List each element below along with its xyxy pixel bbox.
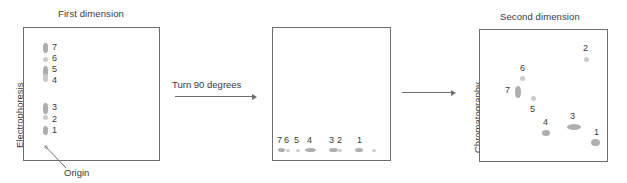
- spot-7-first: [43, 43, 48, 53]
- turn-arrow-line: [175, 96, 253, 97]
- spot-3-second: [567, 124, 581, 130]
- spot-5-turned: [296, 149, 300, 152]
- spot-label-1-second: 1: [594, 128, 599, 137]
- spot-label-4-turned: 4: [307, 136, 312, 145]
- arrow-right-icon: [451, 90, 456, 96]
- spot-label-6-second: 6: [520, 64, 525, 73]
- spot-label-3-turned: 3: [329, 136, 334, 145]
- spot-origin-turned: [372, 149, 376, 152]
- spot-7-second: [515, 86, 521, 98]
- spot-label-4-first: 4: [52, 76, 57, 85]
- spot-label-7-second: 7: [505, 86, 510, 95]
- spot-4-second: [542, 130, 550, 136]
- spot-2-turned: [338, 149, 342, 152]
- spot-label-3-first: 3: [52, 103, 57, 112]
- spot-6-second: [520, 76, 525, 81]
- spot-label-4-second: 4: [543, 118, 548, 127]
- spot-label-2-first: 2: [52, 115, 57, 124]
- spot-2-first: [43, 115, 48, 120]
- spot-label-3-second: 3: [570, 112, 575, 121]
- spot-1-turned: [355, 148, 363, 152]
- spot-4-first: [43, 74, 48, 82]
- spot-label-6-first: 6: [52, 54, 57, 63]
- spot-label-1-first: 1: [52, 126, 57, 135]
- spot-3-first: [43, 103, 48, 114]
- spot-5-second: [531, 96, 536, 101]
- panel-second-dimension: [479, 29, 608, 162]
- spot-1-first: [43, 126, 48, 135]
- spot-label-7-turned: 7: [277, 136, 282, 145]
- spot-6-first: [43, 57, 48, 62]
- spot-label-5-second: 5: [530, 105, 535, 114]
- spot-label-7-first: 7: [52, 43, 57, 52]
- flow-arrow-line: [402, 92, 452, 93]
- spot-label-2-turned: 2: [337, 136, 342, 145]
- spot-7-turned: [278, 148, 285, 152]
- spot-2-second: [584, 57, 589, 62]
- turn-90-degrees-caption: Turn 90 degrees: [172, 79, 241, 90]
- spot-3-turned: [329, 148, 338, 152]
- arrow-right-icon: [252, 94, 257, 100]
- spot-label-6-turned: 6: [284, 136, 289, 145]
- two-dimensional-separation-figure: First dimension Electrophoresis 7 6 5 4 …: [0, 0, 627, 183]
- spot-6-turned: [286, 149, 290, 152]
- spot-label-5-first: 5: [52, 65, 57, 74]
- spot-label-1-turned: 1: [357, 136, 362, 145]
- spot-1-second: [591, 139, 600, 146]
- spot-label-2-second: 2: [583, 44, 588, 53]
- panel-first-title: First dimension: [58, 8, 124, 19]
- spot-4-turned: [305, 148, 316, 152]
- spot-label-5-turned: 5: [294, 136, 299, 145]
- origin-label: Origin: [64, 167, 89, 178]
- panel-second-title: Second dimension: [500, 11, 580, 22]
